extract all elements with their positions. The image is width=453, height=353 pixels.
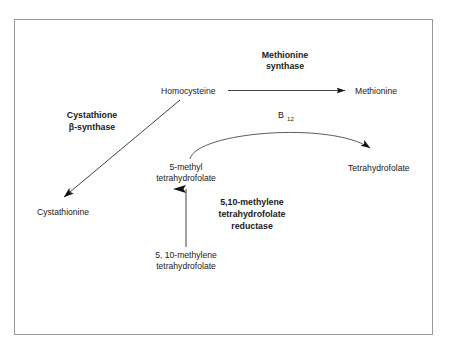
enzyme-cystathione-synthase-line1: Cystathione [67, 110, 117, 120]
metabolite-5-10-methylene-tetrahydrofolate: 5, 10-methylene tetrahydrofolate [155, 250, 217, 271]
metabolite-5-10-methylene-thf-line2: tetrahydrofolate [156, 261, 216, 271]
metabolite-5-10-methylene-thf-line1: 5, 10-methylene [155, 250, 217, 260]
enzyme-methionine-synthase: Methionine synthase [262, 50, 309, 71]
enzyme-cystathione-synthase-line2: β-synthase [69, 122, 116, 132]
cofactor-b12-subscript: 12 [287, 115, 294, 122]
metabolite-cystathionine: Cystathionine [37, 207, 89, 217]
enzyme-methionine-synthase-line1: Methionine [262, 50, 309, 60]
enzyme-mthfr-line3: reductase [231, 221, 273, 231]
metabolite-tetrahydrofolate: Tetrahydrofolate [348, 163, 410, 173]
enzyme-mthfr-line2: tetrahydrofolate [219, 209, 286, 219]
enzyme-methionine-synthase-line2: synthase [266, 61, 304, 71]
metabolite-5-methyl-thf-line1: 5-methyl [170, 162, 203, 172]
metabolite-5-methyl-tetrahydrofolate: 5-methyl tetrahydrofolate [156, 162, 216, 183]
enzyme-mthfr: 5,10-methylene tetrahydrofolate reductas… [219, 197, 286, 231]
enzyme-cystathione-beta-synthase: Cystathione β-synthase [67, 110, 117, 132]
pathway-diagram: Methionine synthase Cystathione β-syntha… [0, 0, 453, 353]
cofactor-b12: B 12 [278, 110, 294, 122]
enzyme-mthfr-line1: 5,10-methylene [220, 197, 284, 207]
cofactor-b12-symbol: B [278, 110, 284, 120]
metabolite-5-methyl-thf-line2: tetrahydrofolate [156, 173, 216, 183]
arrow-methyl-thf-to-tetrahydrofolate [190, 132, 370, 159]
metabolite-homocysteine: Homocysteine [161, 86, 216, 96]
metabolite-methionine: Methionine [355, 86, 397, 96]
